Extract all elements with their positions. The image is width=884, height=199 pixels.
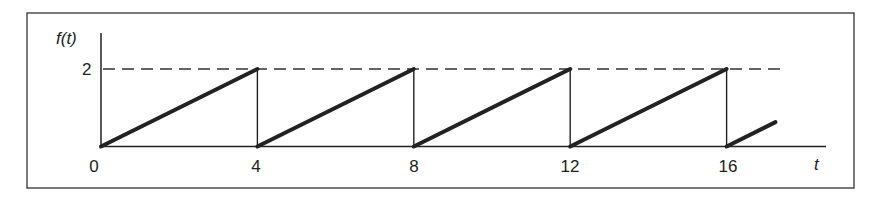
x-tick-0: 0	[89, 157, 98, 176]
sawtooth-chart: f(t) 2 t 0 4 8 12 16	[0, 0, 884, 199]
x-tick-4: 4	[251, 157, 260, 176]
ramp-segment	[570, 69, 726, 147]
y-axis-label: f(t)	[56, 29, 77, 48]
sawtooth-curve	[101, 69, 775, 147]
ramp-segment	[101, 69, 257, 147]
x-tick-12: 12	[561, 157, 580, 176]
x-tick-16: 16	[719, 157, 738, 176]
y-tick-2: 2	[82, 60, 91, 79]
x-tick-8: 8	[409, 157, 418, 176]
ramp-segment	[414, 69, 570, 147]
ramp-segment	[257, 69, 413, 147]
x-axis-label: t	[814, 155, 820, 174]
ramp-segment	[727, 122, 776, 146]
